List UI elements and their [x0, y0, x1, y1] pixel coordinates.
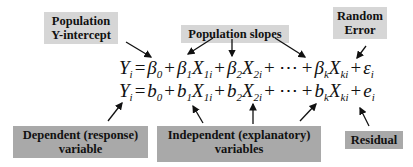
- arrow-independent-1: [193, 106, 203, 123]
- arrow-dependent: [108, 103, 122, 121]
- arrow-independent-k: [300, 104, 316, 121]
- arrow-slope-k: [275, 38, 305, 57]
- annotation-arrows: [0, 0, 413, 167]
- arrow-intercept: [126, 42, 151, 57]
- arrow-slope-1: [188, 38, 213, 54]
- arrow-random-error: [357, 46, 366, 58]
- arrow-residual: [360, 108, 369, 126]
